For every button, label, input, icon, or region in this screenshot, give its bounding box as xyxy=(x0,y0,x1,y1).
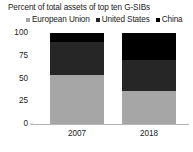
legend-item-united-states[interactable]: United States xyxy=(96,15,150,24)
bar-column-2018[interactable] xyxy=(122,33,176,124)
square-swatch-icon xyxy=(96,18,100,22)
y-axis-tick-label-0: 0 xyxy=(23,120,28,128)
x-axis-label-2007: 2007 xyxy=(50,129,104,139)
x-axis-line xyxy=(31,124,189,125)
bar-segment-2018-united-states[interactable] xyxy=(122,60,176,91)
y-axis-tick-label-100: 100 xyxy=(14,29,28,37)
y-axis: 0255075100 xyxy=(0,33,32,124)
square-swatch-icon xyxy=(156,18,160,22)
bar-segment-2007-european-union[interactable] xyxy=(50,75,104,124)
legend-label-china: China xyxy=(162,15,183,24)
square-swatch-icon xyxy=(26,18,30,22)
y-axis-tick-label-50: 50 xyxy=(19,75,28,83)
legend-label-united-states: United States xyxy=(102,15,150,24)
y-axis-tick-label-75: 75 xyxy=(19,52,28,60)
bar-column-2007[interactable] xyxy=(50,33,104,124)
legend-label-european-union: European Union xyxy=(32,15,90,24)
chart-title: Percent of total assets of top ten G-SIB… xyxy=(8,3,193,13)
legend-item-china[interactable]: China xyxy=(156,15,183,24)
chart-legend: European Union United States China xyxy=(26,15,183,24)
x-axis-label-2018: 2018 xyxy=(122,129,176,139)
bar-segment-2007-united-states[interactable] xyxy=(50,42,104,75)
legend-item-european-union[interactable]: European Union xyxy=(26,15,90,24)
bar-segment-2018-european-union[interactable] xyxy=(122,91,176,124)
plot-area xyxy=(34,33,186,124)
chart-figure: Percent of total assets of top ten G-SIB… xyxy=(0,0,193,152)
bar-segment-2018-china[interactable] xyxy=(122,33,176,60)
bar-segment-2007-china[interactable] xyxy=(50,33,104,42)
x-axis: 2007 2018 xyxy=(34,129,186,143)
y-axis-tick-label-25: 25 xyxy=(19,97,28,105)
